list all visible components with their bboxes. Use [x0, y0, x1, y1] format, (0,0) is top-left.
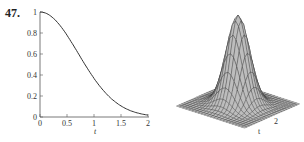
data-line [40, 12, 148, 115]
svg-text:0.5: 0.5 [62, 119, 72, 128]
svg-text:0: 0 [38, 119, 42, 128]
chart-canvas: 00.20.40.60.81 00.511.52 t 2t [0, 0, 304, 142]
svg-text:2: 2 [146, 119, 150, 128]
svg-text:0.8: 0.8 [27, 29, 37, 38]
svg-text:0.4: 0.4 [27, 71, 37, 80]
x-ticks: 00.511.52 [38, 114, 150, 128]
svg-text:0.6: 0.6 [27, 50, 37, 59]
y-ticks: 00.20.40.60.81 [27, 8, 43, 122]
surface-plot: 2t [176, 15, 299, 136]
line-chart: 00.20.40.60.81 00.511.52 t [27, 8, 150, 136]
svg-text:1.5: 1.5 [116, 119, 126, 128]
svg-text:0: 0 [33, 113, 37, 122]
x-axis-label: t [94, 127, 97, 136]
svg-text:2: 2 [274, 117, 278, 126]
svg-text:t: t [258, 127, 261, 136]
svg-text:0.2: 0.2 [27, 92, 37, 101]
svg-text:1: 1 [33, 8, 37, 17]
